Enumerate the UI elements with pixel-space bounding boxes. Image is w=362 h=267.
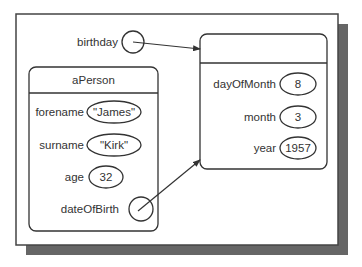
person-title: aPerson	[72, 74, 115, 86]
field-value-dayofmonth: 8	[295, 78, 301, 90]
object-diagram: birthday aPerson forename "James" surnam…	[0, 0, 362, 267]
field-label-year: year	[254, 142, 277, 154]
field-label-forename: forename	[35, 106, 84, 118]
date-object-box: dayOfMonth 8 month 3 year 1957	[200, 34, 327, 169]
field-value-year: 1957	[285, 142, 311, 154]
field-label-age: age	[65, 171, 84, 183]
field-label-month: month	[244, 111, 276, 123]
field-value-age: 32	[100, 171, 113, 183]
field-label-dayofmonth: dayOfMonth	[213, 78, 276, 90]
field-value-forename: "James"	[93, 106, 135, 118]
field-label-surname: surname	[39, 139, 84, 151]
field-value-month: 3	[295, 111, 301, 123]
field-label-dateofbirth: dateOfBirth	[61, 203, 119, 215]
field-value-surname: "Kirk"	[100, 139, 128, 151]
person-object-box: aPerson forename "James" surname "Kirk" …	[29, 67, 158, 231]
birthday-label: birthday	[77, 36, 118, 48]
